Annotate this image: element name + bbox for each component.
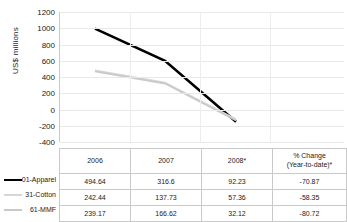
gridline bbox=[60, 28, 344, 29]
header-percent-change: % Change (Year-to-date)* bbox=[273, 149, 347, 174]
legend-item[interactable]: 01-Apparel bbox=[0, 172, 59, 187]
header-change-line2: (Year-to-date)* bbox=[273, 161, 346, 170]
legend-item[interactable]: 61-MMF bbox=[0, 202, 59, 217]
table-cell-v2008: 57.36 bbox=[202, 190, 273, 206]
y-tick-label: 1000 bbox=[37, 24, 55, 33]
y-tick-label: -400 bbox=[39, 138, 55, 147]
table-cell-v2007: 316.6 bbox=[131, 174, 202, 190]
y-tick-label: 200 bbox=[42, 89, 55, 98]
table-row: 242.44137.7357.36-58.35 bbox=[60, 190, 347, 206]
y-tick-label: 400 bbox=[42, 73, 55, 82]
gridline bbox=[60, 12, 344, 13]
legend-item[interactable]: 31-Cotton bbox=[0, 187, 59, 202]
gridline bbox=[60, 110, 344, 111]
legend-line-icon bbox=[4, 194, 22, 196]
table-cell-v2006: 242.44 bbox=[60, 190, 131, 206]
header-2007: 2007 bbox=[131, 149, 202, 174]
legend-line-icon bbox=[4, 179, 22, 181]
gridline bbox=[60, 77, 344, 78]
header-change-line1: % Change bbox=[273, 152, 346, 161]
table-cell-change: -58.35 bbox=[273, 190, 347, 206]
data-table: 2006 2007 2008* % Change (Year-to-date)*… bbox=[59, 148, 347, 222]
vertical-gridline bbox=[130, 12, 131, 142]
gridline bbox=[60, 126, 344, 127]
header-2006: 2006 bbox=[60, 149, 131, 174]
y-tick-label: 1200 bbox=[37, 8, 55, 17]
table-cell-v2008: 32.12 bbox=[202, 206, 273, 222]
series-line bbox=[95, 71, 236, 120]
gridline bbox=[60, 61, 344, 62]
legend-line-icon bbox=[4, 209, 22, 211]
table-cell-v2006: 494.64 bbox=[60, 174, 131, 190]
y-tick-label: 0 bbox=[51, 105, 55, 114]
legend-label: 01-Apparel bbox=[22, 176, 56, 183]
chart-figure: US$ millions 120010008006004002000-200-4… bbox=[0, 0, 343, 219]
vertical-gridline bbox=[270, 12, 271, 142]
legend-label: 31-Cotton bbox=[25, 191, 56, 198]
data-table-region: 01-Apparel31-Cotton61-MMF 2006 2007 2008… bbox=[0, 148, 343, 219]
table-cell-v2006: 239.17 bbox=[60, 206, 131, 222]
plot-region: US$ millions 120010008006004002000-200-4… bbox=[0, 0, 343, 148]
plot-area bbox=[59, 12, 344, 142]
gridline bbox=[60, 93, 344, 94]
table-cell-v2008: 92.23 bbox=[202, 174, 273, 190]
table-row: 494.64316.692.23-70.87 bbox=[60, 174, 347, 190]
table-cell-change: -80.72 bbox=[273, 206, 347, 222]
y-axis-ticks: 120010008006004002000-200-400 bbox=[18, 0, 58, 148]
table-header-row: 2006 2007 2008* % Change (Year-to-date)* bbox=[60, 149, 347, 174]
table-cell-v2007: 166.62 bbox=[131, 206, 202, 222]
gridline bbox=[60, 142, 344, 143]
table-cell-change: -70.87 bbox=[273, 174, 347, 190]
legend-label: 61-MMF bbox=[30, 206, 56, 213]
header-2008: 2008* bbox=[202, 149, 273, 174]
y-tick-label: 600 bbox=[42, 56, 55, 65]
vertical-gridline bbox=[200, 12, 201, 142]
table-body: 494.64316.692.23-70.87242.44137.7357.36-… bbox=[60, 174, 347, 222]
table-cell-v2007: 137.73 bbox=[131, 190, 202, 206]
y-tick-label: 800 bbox=[42, 40, 55, 49]
chart-legend: 01-Apparel31-Cotton61-MMF bbox=[0, 172, 59, 218]
gridline bbox=[60, 45, 344, 46]
table-row: 239.17166.6232.12-80.72 bbox=[60, 206, 347, 222]
y-tick-label: -200 bbox=[39, 121, 55, 130]
